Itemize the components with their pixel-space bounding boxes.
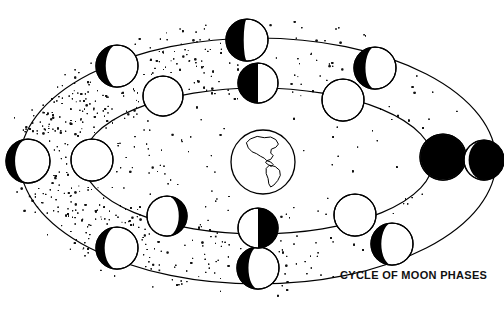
stipple-dot <box>87 226 88 227</box>
stipple-dot <box>114 276 115 277</box>
stipple-dot <box>198 81 200 83</box>
stipple-dot <box>48 132 49 133</box>
stipple-dot <box>296 263 297 264</box>
stipple-dot <box>89 103 90 104</box>
stipple-dot <box>68 192 70 194</box>
moon-inner-2 <box>143 76 183 116</box>
stipple-dot <box>286 256 287 257</box>
stipple-dot <box>82 122 83 123</box>
stipple-dot <box>377 140 378 141</box>
stipple-dot <box>156 60 158 62</box>
stipple-dot <box>150 59 152 61</box>
stipple-dot <box>177 184 178 185</box>
stipple-dot <box>412 197 413 198</box>
stipple-dot <box>228 210 229 211</box>
stipple-dot <box>416 76 417 77</box>
stipple-dot <box>144 235 146 237</box>
stipple-dot <box>52 112 53 113</box>
stipple-dot <box>91 63 92 64</box>
stipple-dot <box>42 126 43 127</box>
stipple-dot <box>38 188 39 189</box>
stipple-dot <box>412 86 414 88</box>
stipple-dot <box>229 244 230 245</box>
stipple-dot <box>332 66 333 67</box>
stipple-dot <box>195 62 196 63</box>
stipple-dot <box>432 92 433 93</box>
stipple-dot <box>129 220 131 222</box>
stipple-dot <box>72 217 73 218</box>
stipple-dot <box>49 124 50 125</box>
stipple-dot <box>144 74 145 75</box>
stipple-dot <box>237 65 238 66</box>
stipple-dot <box>76 101 77 102</box>
stipple-dot <box>176 284 178 286</box>
stipple-dot <box>338 156 339 157</box>
stipple-dot <box>211 155 212 156</box>
stipple-dot <box>326 214 327 215</box>
stipple-dot <box>62 103 63 104</box>
stipple-dot <box>196 66 197 67</box>
stipple-dot <box>139 206 141 208</box>
stipple-dot <box>75 133 77 135</box>
stipple-dot <box>134 90 135 91</box>
stipple-dot <box>292 92 293 93</box>
stipple-dot <box>65 74 66 75</box>
stipple-dot <box>207 166 208 167</box>
moon-outer-3 <box>226 19 268 61</box>
stipple-dot <box>108 112 109 113</box>
stipple-dot <box>330 237 332 239</box>
stipple-dot <box>85 204 86 205</box>
stipple-dot <box>389 106 390 107</box>
stipple-dot <box>130 207 132 209</box>
stipple-dot <box>65 157 66 158</box>
stipple-dot <box>136 100 137 101</box>
stipple-dot <box>82 111 83 112</box>
stipple-dot <box>311 53 312 54</box>
stipple-dot <box>217 233 218 234</box>
stipple-dot <box>35 194 36 195</box>
stipple-dot <box>202 245 203 246</box>
stipple-dot <box>214 172 215 173</box>
stipple-dot <box>80 119 81 120</box>
stipple-dot <box>305 261 306 262</box>
stipple-dot <box>75 121 76 122</box>
stipple-dot <box>69 96 70 97</box>
stipple-dot <box>137 92 138 93</box>
stipple-dot <box>132 167 133 168</box>
stipple-dot <box>123 188 124 189</box>
stipple-dot <box>205 49 206 50</box>
stipple-dot <box>166 32 167 33</box>
stipple-dot <box>88 92 89 93</box>
stipple-dot <box>152 286 153 287</box>
stipple-dot <box>77 213 78 214</box>
stipple-dot <box>205 272 206 273</box>
stipple-dot <box>70 109 71 110</box>
stipple-dot <box>94 127 95 128</box>
stipple-dot <box>104 116 105 117</box>
stipple-dot <box>297 236 298 237</box>
stipple-dot <box>228 90 229 91</box>
stipple-dot <box>62 85 63 86</box>
moon-shadow <box>238 63 258 103</box>
stipple-dot <box>58 96 59 97</box>
stipple-dot <box>43 193 44 194</box>
stipple-dot <box>56 100 57 101</box>
stipple-dot <box>118 145 119 146</box>
stipple-dot <box>195 59 197 61</box>
stipple-dot <box>422 194 423 195</box>
stipple-dot <box>145 266 146 267</box>
stipple-dot <box>301 84 302 85</box>
stipple-dot <box>66 172 67 173</box>
stipple-dot <box>64 193 65 194</box>
stipple-dot <box>52 182 54 184</box>
stipple-dot <box>407 203 408 204</box>
stipple-dot <box>133 117 134 118</box>
stipple-dot <box>26 129 27 130</box>
stipple-dot <box>86 105 88 107</box>
stipple-dot <box>229 63 230 64</box>
stipple-dot <box>338 27 339 28</box>
stipple-dot <box>53 210 54 211</box>
stipple-dot <box>68 208 69 209</box>
stipple-dot <box>194 82 195 83</box>
stipple-dot <box>79 110 80 111</box>
